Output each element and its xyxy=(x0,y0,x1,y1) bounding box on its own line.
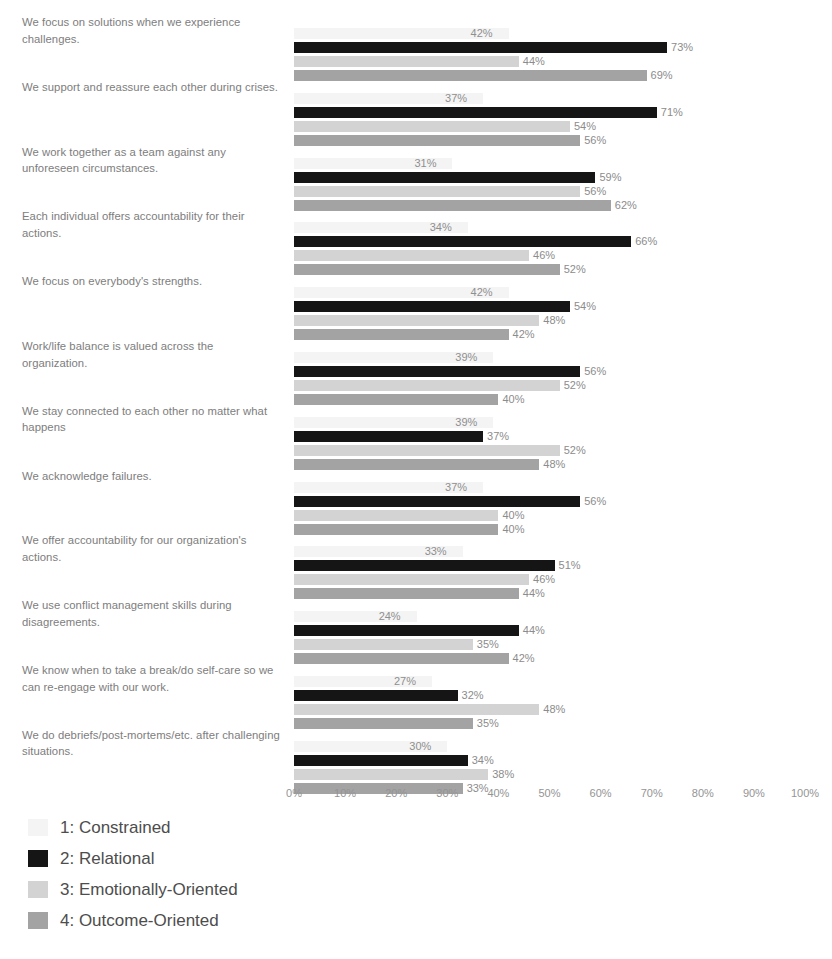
bar-value-label: 24% xyxy=(379,609,401,623)
bar-segment[interactable] xyxy=(294,301,570,312)
plot-area: We focus on solutions when we experience… xyxy=(0,0,832,800)
bar-value-label: 33% xyxy=(425,544,447,558)
bar-segment[interactable] xyxy=(294,574,529,585)
bar-value-label: 48% xyxy=(543,702,565,716)
bar-row: 37% xyxy=(294,431,832,442)
bar-value-label: 46% xyxy=(533,248,555,262)
x-axis-tick-label: 80% xyxy=(692,786,714,800)
bar-row: 42% xyxy=(294,287,832,298)
chart-legend: 1: Constrained2: Relational3: Emotionall… xyxy=(28,812,428,936)
category-group: We focus on everybody's strengths.42%54%… xyxy=(0,273,832,338)
bar-segment[interactable] xyxy=(294,172,595,183)
bar-row: 56% xyxy=(294,496,832,507)
legend-swatch-icon xyxy=(28,819,48,836)
bar-segment[interactable] xyxy=(294,431,483,442)
legend-item[interactable]: 3: Emotionally-Oriented xyxy=(28,874,428,905)
bar-segment[interactable] xyxy=(294,121,570,132)
bar-group: 33%51%46%44% xyxy=(294,532,832,597)
bar-segment[interactable] xyxy=(294,107,657,118)
bar-value-label: 66% xyxy=(635,234,657,248)
bar-segment[interactable] xyxy=(294,510,498,521)
bar-group: 27%32%48%35% xyxy=(294,662,832,727)
bar-segment[interactable] xyxy=(294,560,555,571)
bar-segment[interactable] xyxy=(294,42,667,53)
bar-group: 42%73%44%69% xyxy=(294,14,832,79)
category-label: We stay connected to each other no matte… xyxy=(22,403,280,436)
bar-segment[interactable] xyxy=(294,625,519,636)
bar-segment[interactable] xyxy=(294,250,529,261)
bar-segment[interactable] xyxy=(294,769,488,780)
bar-segment[interactable] xyxy=(294,496,580,507)
bar-row: 42% xyxy=(294,28,832,39)
legend-item[interactable]: 4: Outcome-Oriented xyxy=(28,905,428,936)
bar-value-label: 71% xyxy=(661,105,683,119)
x-axis-tick-label: 0% xyxy=(286,786,302,800)
x-axis-tick-label: 90% xyxy=(743,786,765,800)
category-group: We offer accountability for our organiza… xyxy=(0,532,832,597)
category-label: We do debriefs/post-mortems/etc. after c… xyxy=(22,727,280,760)
bar-value-label: 44% xyxy=(523,54,545,68)
category-label: Each individual offers accountability fo… xyxy=(22,208,280,241)
category-group: We support and reassure each other durin… xyxy=(0,79,832,144)
bar-group: 34%66%46%52% xyxy=(294,208,832,273)
bar-group: 37%71%54%56% xyxy=(294,79,832,144)
category-group: We acknowledge failures.37%56%40%40% xyxy=(0,468,832,533)
bar-segment[interactable] xyxy=(294,639,473,650)
x-axis-tick-label: 40% xyxy=(487,786,509,800)
bar-value-label: 52% xyxy=(564,378,586,392)
category-label: We focus on everybody's strengths. xyxy=(22,273,280,290)
bar-row: 71% xyxy=(294,107,832,118)
bar-row: 37% xyxy=(294,93,832,104)
x-axis-tick-label: 20% xyxy=(385,786,407,800)
legend-item[interactable]: 1: Constrained xyxy=(28,812,428,843)
bar-row: 44% xyxy=(294,625,832,636)
legend-label: 1: Constrained xyxy=(60,817,171,839)
x-axis-tick-label: 30% xyxy=(436,786,458,800)
bar-row: 46% xyxy=(294,250,832,261)
bar-segment[interactable] xyxy=(294,236,631,247)
bar-row: 38% xyxy=(294,769,832,780)
category-label: We acknowledge failures. xyxy=(22,468,280,485)
category-label: Work/life balance is valued across the o… xyxy=(22,338,280,371)
bar-row: 54% xyxy=(294,121,832,132)
bar-value-label: 30% xyxy=(409,739,431,753)
bar-segment[interactable] xyxy=(294,445,560,456)
bar-row: 44% xyxy=(294,56,832,67)
bar-value-label: 34% xyxy=(472,753,494,767)
category-group: We do debriefs/post-mortems/etc. after c… xyxy=(0,727,832,792)
category-label: We use conflict management skills during… xyxy=(22,597,280,630)
category-group: Work/life balance is valued across the o… xyxy=(0,338,832,403)
x-axis-tick-label: 70% xyxy=(641,786,663,800)
bar-segment[interactable] xyxy=(294,690,458,701)
bar-value-label: 48% xyxy=(543,313,565,327)
bar-group: 24%44%35%42% xyxy=(294,597,832,662)
bar-row: 40% xyxy=(294,510,832,521)
bar-row: 56% xyxy=(294,366,832,377)
legend-swatch-icon xyxy=(28,912,48,929)
bar-value-label: 40% xyxy=(502,508,524,522)
bar-row: 34% xyxy=(294,755,832,766)
bar-value-label: 39% xyxy=(455,350,477,364)
bar-segment[interactable] xyxy=(294,366,580,377)
bar-value-label: 56% xyxy=(584,364,606,378)
bar-row: 52% xyxy=(294,445,832,456)
bar-segment[interactable] xyxy=(294,380,560,391)
legend-item[interactable]: 2: Relational xyxy=(28,843,428,874)
bar-segment[interactable] xyxy=(294,56,519,67)
bar-row: 59% xyxy=(294,172,832,183)
legend-label: 3: Emotionally-Oriented xyxy=(60,879,238,901)
category-group: Each individual offers accountability fo… xyxy=(0,208,832,273)
bar-value-label: 46% xyxy=(533,572,555,586)
bar-segment[interactable] xyxy=(294,704,539,715)
bar-group: 42%54%48%42% xyxy=(294,273,832,338)
bar-segment[interactable] xyxy=(294,186,580,197)
bar-row: 56% xyxy=(294,186,832,197)
bar-row: 48% xyxy=(294,704,832,715)
bar-value-label: 39% xyxy=(455,415,477,429)
bar-row: 35% xyxy=(294,639,832,650)
bar-segment[interactable] xyxy=(294,315,539,326)
category-label: We offer accountability for our organiza… xyxy=(22,532,280,565)
bar-segment[interactable] xyxy=(294,755,468,766)
legend-swatch-icon xyxy=(28,850,48,867)
x-axis: 0%10%20%30%40%50%60%70%80%90%100% xyxy=(294,786,832,804)
